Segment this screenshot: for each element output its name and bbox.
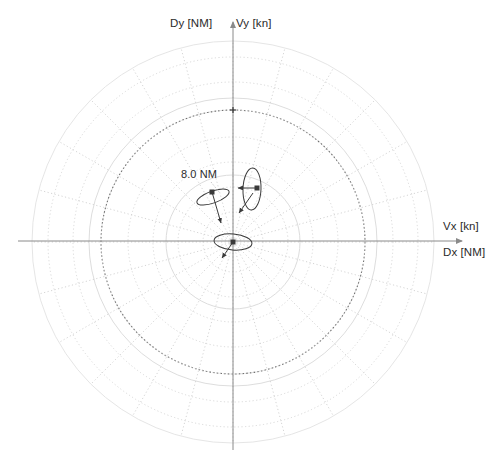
axis-label-vy: Vy [kn] (236, 17, 271, 29)
radial-spoke-17 (39, 242, 233, 294)
radial-spoke-16 (59, 242, 233, 343)
radial-spoke-13 (181, 242, 233, 436)
radial-spoke-3 (233, 100, 375, 242)
radial-spoke-1 (233, 48, 285, 242)
radial-spoke-7 (233, 242, 427, 294)
radial-spoke-22 (133, 68, 234, 242)
radial-spoke-15 (91, 242, 233, 384)
radial-spoke-9 (233, 242, 375, 384)
radial-spoke-2 (233, 68, 334, 242)
axis-label-dx: Dx [NM] (443, 246, 485, 258)
radial-spoke-14 (133, 242, 234, 416)
radial-spoke-5 (233, 190, 427, 242)
radial-spoke-20 (59, 142, 233, 243)
uncertainty-ellipse-upper-right-marker (255, 186, 260, 191)
radial-spoke-10 (233, 242, 334, 416)
radial-spoke-11 (233, 242, 285, 436)
horizontal-axis-arrow (456, 238, 463, 244)
polar-plot-svg (0, 0, 500, 458)
radial-spoke-4 (233, 142, 407, 243)
axis-label-vx: Vx [kn] (443, 220, 479, 232)
uncertainty-ellipse-left-marker (210, 190, 215, 195)
range-ring-annotation: 8.0 NM (181, 168, 217, 180)
radial-spoke-8 (233, 242, 407, 343)
tick-markers-group (230, 107, 236, 113)
uncertainty-ellipse-center-marker (231, 240, 236, 245)
axis-label-dy: Dy [NM] (170, 17, 212, 29)
polar-plot-canvas: Dy [NM] Vy [kn] Vx [kn] Dx [NM] 8.0 NM (0, 0, 500, 458)
